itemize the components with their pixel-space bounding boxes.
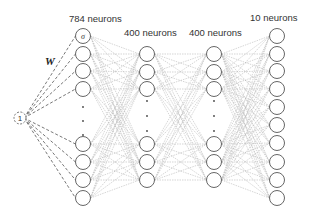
hidden1-neuron xyxy=(140,65,155,80)
ellipsis-dot xyxy=(146,115,148,117)
connection-edge xyxy=(91,72,140,144)
connection-edge xyxy=(222,36,270,89)
bias-weight-edge xyxy=(24,118,76,144)
connection-edge xyxy=(91,54,140,198)
output-neuron xyxy=(270,100,285,115)
connection-edge xyxy=(222,89,270,107)
hidden2-neuron xyxy=(207,155,222,170)
hidden2-neuron xyxy=(207,82,222,97)
connection-edge xyxy=(222,107,270,180)
input-neuron xyxy=(76,82,91,97)
connection-edge xyxy=(91,36,140,72)
hidden1-neuron xyxy=(140,82,155,97)
input-neuron xyxy=(76,155,91,170)
ellipsis-dot xyxy=(213,100,215,102)
input-neuron xyxy=(76,137,91,152)
connection-edge xyxy=(222,89,270,125)
bias-node-label: 1 xyxy=(18,114,23,123)
connection-edge xyxy=(91,180,140,198)
output-neuron xyxy=(270,82,285,97)
bias-weight-edge xyxy=(24,71,76,118)
layer-label-output: 10 neurons xyxy=(250,12,298,23)
ellipsis-dot xyxy=(146,130,148,132)
connection-edge xyxy=(91,144,140,180)
ellipsis-dot xyxy=(146,100,148,102)
output-neuron xyxy=(270,29,285,44)
weight-label: W xyxy=(45,55,55,67)
bias-weight-edge xyxy=(24,118,76,180)
output-neuron xyxy=(270,118,285,133)
output-neuron xyxy=(270,191,285,206)
connection-edge xyxy=(222,180,270,198)
ellipsis-dot xyxy=(82,134,84,136)
output-neuron xyxy=(270,136,285,151)
bias-weight-edge xyxy=(24,118,76,198)
connection-edge xyxy=(91,162,140,198)
bias-weight-edge xyxy=(24,118,76,162)
connection-edge xyxy=(91,36,140,144)
connection-edge xyxy=(222,36,270,54)
output-neuron xyxy=(270,173,285,188)
output-neuron xyxy=(270,64,285,79)
connection-edge xyxy=(91,36,140,54)
output-neuron xyxy=(270,47,285,62)
hidden1-neuron xyxy=(140,173,155,188)
connection-edge xyxy=(91,54,140,72)
bias-weight-edge xyxy=(24,36,76,118)
layer-label-hidden-1: 400 neurons xyxy=(124,27,177,38)
hidden2-neuron xyxy=(207,137,222,152)
ellipsis-dot xyxy=(82,120,84,122)
layer-label-hidden-2: 400 neurons xyxy=(189,27,242,38)
connection-edge xyxy=(222,54,270,125)
bias-weight-edge xyxy=(24,89,76,118)
ellipsis-dot xyxy=(213,130,215,132)
connection-edge xyxy=(91,144,140,198)
connection-edge xyxy=(222,71,270,72)
hidden2-neuron xyxy=(207,173,222,188)
ellipsis-dot xyxy=(213,115,215,117)
hidden1-neuron xyxy=(140,47,155,62)
hidden2-neuron xyxy=(207,65,222,80)
layer-label-input: 784 neurons xyxy=(69,13,122,24)
hidden2-neuron xyxy=(207,47,222,62)
ellipsis-dot xyxy=(82,106,84,108)
hidden1-neuron xyxy=(140,155,155,170)
output-neuron xyxy=(270,155,285,170)
input-neuron xyxy=(76,191,91,206)
connection-edge xyxy=(222,36,270,180)
input-neuron xyxy=(76,47,91,62)
input-neuron xyxy=(76,64,91,79)
connection-edge xyxy=(91,72,140,89)
connection-edge xyxy=(91,72,140,198)
hidden1-neuron xyxy=(140,137,155,152)
input-neuron xyxy=(76,173,91,188)
